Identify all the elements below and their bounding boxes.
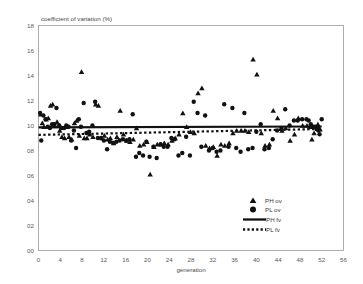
x-tick-label: 36 [231, 256, 238, 263]
data-point-ph-ov [309, 137, 314, 142]
data-point-pl-ov [141, 153, 145, 157]
data-point-ph-ov [214, 153, 219, 158]
data-point-ph-ov [54, 119, 59, 124]
y-tick-label: 00 [27, 247, 34, 254]
x-tick-label: 24 [166, 256, 173, 263]
data-point-pl-ov [134, 155, 138, 159]
y-tick-label: 06 [27, 172, 34, 179]
data-point-pl-ov [105, 147, 109, 151]
legend-label-pl-fv: PL fv [266, 226, 281, 233]
data-point-pl-ov [54, 106, 58, 110]
x-tick-label: 20 [144, 256, 151, 263]
data-point-pl-ov [39, 138, 43, 142]
data-point-pl-ov [192, 100, 196, 104]
data-point-pl-ov [222, 102, 226, 106]
x-axis-ticks: 048121620242832364044485256 [37, 256, 348, 263]
data-point-pl-ov [199, 145, 203, 149]
data-point-ph-ov [203, 143, 208, 148]
data-point-ph-ov [267, 142, 272, 147]
x-tick-label: 8 [80, 256, 84, 263]
data-point-ph-ov [300, 123, 305, 128]
data-point-ph-ov [199, 85, 204, 90]
x-tick-label: 32 [209, 256, 216, 263]
x-axis-label: generation [176, 266, 206, 273]
data-point-pl-ov [230, 106, 234, 110]
data-point-pl-ov [180, 151, 184, 155]
data-point-ph-ov [296, 115, 301, 120]
legend-marker-ph-ov-triangle-icon [250, 198, 257, 204]
y-tick-label: 18 [27, 22, 34, 29]
data-point-pl-ov [176, 153, 180, 157]
data-point-ph-ov [108, 135, 113, 140]
data-point-pl-ov [218, 148, 222, 152]
y-tick-label: 10 [27, 122, 34, 129]
data-point-pl-ov [306, 118, 310, 122]
data-point-pl-ov [292, 118, 296, 122]
data-point-ph-ov [218, 142, 223, 147]
data-point-pl-ov [250, 146, 254, 150]
x-tick-label: 44 [275, 256, 282, 263]
data-point-pl-ov [254, 130, 258, 134]
chart-container: coefficient of variation (%) 00020406081… [0, 0, 363, 284]
y-tick-label: 14 [27, 72, 34, 79]
data-point-ph-ov [254, 72, 259, 77]
data-point-pl-ov [131, 112, 135, 116]
data-point-pl-ov [300, 117, 304, 121]
x-tick-label: 16 [122, 256, 129, 263]
legend-label-ph-fv: PH fv [266, 216, 282, 223]
x-tick-label: 40 [253, 256, 260, 263]
data-point-pl-ov [242, 111, 246, 115]
x-tick-label: 4 [59, 256, 63, 263]
data-point-ph-ov [234, 128, 239, 133]
legend-marker-pl-ov-circle-icon [250, 207, 256, 213]
data-point-pl-ov [72, 128, 76, 132]
data-point-ph-ov [195, 90, 200, 95]
x-tick-label: 52 [318, 256, 325, 263]
x-tick-label: 12 [100, 256, 107, 263]
data-point-pl-ov [259, 122, 263, 126]
data-point-pl-ov [317, 132, 321, 136]
data-point-pl-ov [74, 146, 78, 150]
legend-label-ph-ov: PH ov [265, 197, 283, 204]
data-point-pl-ov [320, 117, 324, 121]
data-point-ph-ov [250, 57, 255, 62]
data-point-pl-ov [275, 128, 279, 132]
data-point-pl-ov [283, 107, 287, 111]
data-point-pl-ov [82, 101, 86, 105]
data-point-pl-ov [214, 150, 218, 154]
data-point-ph-ov [79, 69, 84, 74]
y-tick-label: 12 [27, 97, 34, 104]
series-ph-ov-points [38, 57, 323, 177]
data-point-pl-ov [154, 156, 158, 160]
y-tick-label: 08 [27, 147, 34, 154]
legend-label-pl-ov: PL ov [265, 206, 281, 213]
data-point-pl-ov [90, 123, 94, 127]
data-point-ph-ov [287, 138, 292, 143]
x-tick-label: 56 [340, 256, 347, 263]
data-point-pl-ov [246, 147, 250, 151]
chart-title: coefficient of variation (%) [41, 15, 112, 22]
y-tick-label: 16 [27, 47, 34, 54]
data-point-pl-ov [184, 135, 188, 139]
data-point-ph-ov [226, 140, 231, 145]
data-point-pl-ov [79, 125, 83, 129]
data-point-pl-ov [147, 155, 151, 159]
data-point-ph-ov [180, 110, 185, 115]
data-point-pl-ov [48, 126, 52, 130]
data-point-ph-ov [114, 134, 119, 139]
data-point-pl-ov [188, 153, 192, 157]
data-point-ph-ov [315, 122, 320, 127]
data-point-pl-ov [287, 123, 291, 127]
y-tick-label: 04 [27, 197, 34, 204]
data-point-pl-ov [238, 150, 242, 154]
data-point-ph-ov [275, 115, 280, 120]
x-tick-label: 28 [188, 256, 195, 263]
data-point-pl-ov [195, 111, 199, 115]
y-tick-label: 02 [27, 222, 34, 229]
x-tick-label: 48 [296, 256, 303, 263]
data-point-pl-ov [234, 146, 238, 150]
x-tick-label: 0 [37, 256, 41, 263]
data-point-ph-ov [147, 172, 152, 177]
data-point-ph-ov [176, 132, 181, 137]
y-axis-ticks: 00020406081012141618 [27, 22, 34, 254]
